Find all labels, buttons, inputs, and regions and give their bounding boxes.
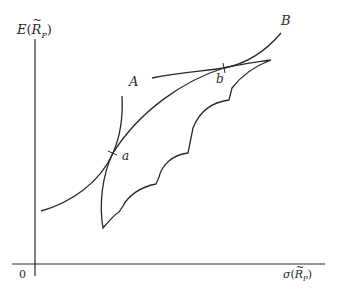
- tangency-label-a: a: [122, 149, 129, 163]
- origin-label: 0: [19, 268, 26, 281]
- tangency-label-b: b: [216, 72, 224, 86]
- tilde-mark: ~: [33, 14, 42, 27]
- feasible-set-boundary: [101, 60, 271, 228]
- curve-label-b: B: [281, 13, 291, 28]
- x-axis-label-var-wrap: ~R: [295, 268, 303, 281]
- y-axis-label: E(~RP): [17, 22, 52, 40]
- paren-close: ): [308, 268, 312, 281]
- x-axis-label: σ(~RP): [283, 268, 312, 283]
- tilde-mark: ~: [296, 261, 304, 272]
- y-axis-label-var-wrap: ~R: [32, 22, 42, 37]
- curve-label-a: A: [129, 74, 138, 89]
- diagram-canvas: [0, 0, 339, 299]
- y-axis-label-func: E: [17, 22, 27, 37]
- x-axis-label-func: σ: [283, 268, 291, 281]
- paren-close: ): [47, 22, 52, 37]
- indifference-curve-a: [41, 96, 122, 211]
